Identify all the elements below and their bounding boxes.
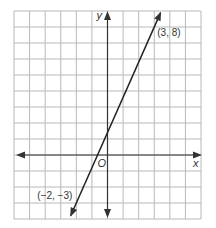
point-label-upper: (3, 8) <box>157 27 180 38</box>
point-label-lower: (−2, −3) <box>37 190 72 201</box>
coordinate-plane: x y O (3, 8) (−2, −3) <box>0 0 216 228</box>
x-axis-label: x <box>192 157 199 169</box>
line-arrow-up-icon <box>154 12 161 22</box>
y-axis-arrow-down-icon <box>104 209 111 218</box>
data-line <box>70 12 161 217</box>
x-axis-arrow-left-icon <box>16 152 25 159</box>
y-axis-arrow-up-icon <box>104 11 111 20</box>
origin-label: O <box>98 157 107 169</box>
